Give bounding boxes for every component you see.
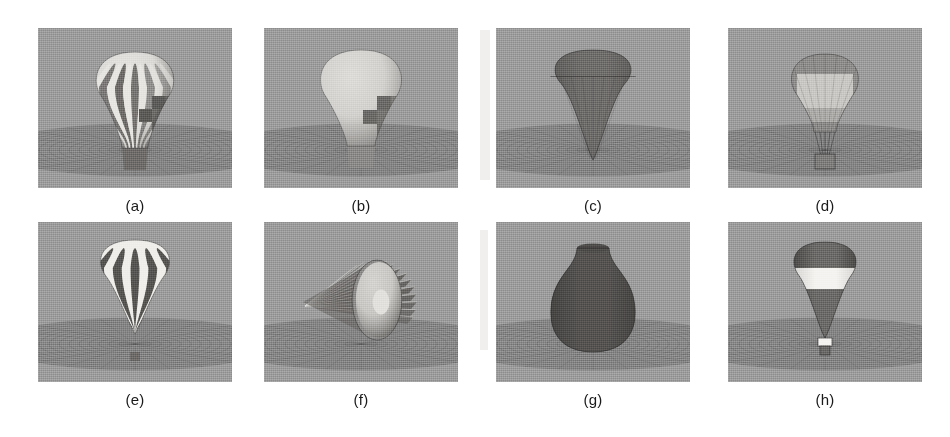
render-image-e [38,222,232,382]
panel-label-b: (b) [264,197,458,214]
render-image-h [728,222,922,382]
panel-label-a: (a) [38,197,232,214]
scan-bleed-artifact [480,230,488,350]
panel-label-c: (c) [496,197,690,214]
render-image-a [38,28,232,188]
figure-panel-grid: (a) (b) (c) [0,0,950,437]
render-image-b [264,28,458,188]
panel-label-g: (g) [496,391,690,408]
panel-label-d: (d) [728,197,922,214]
figure-panel-h: (h) [728,222,922,408]
figure-panel-g: (g) [496,222,690,408]
figure-panel-a: (a) [38,28,232,214]
render-image-d [728,28,922,188]
figure-panel-f: (f) [264,222,458,408]
figure-panel-e: (e) [38,222,232,408]
render-image-c [496,28,690,188]
render-image-g [496,222,690,382]
figure-panel-d: (d) [728,28,922,214]
panel-label-e: (e) [38,391,232,408]
panel-label-f: (f) [264,391,458,408]
panel-label-h: (h) [728,391,922,408]
render-image-f [264,222,458,382]
scan-bleed-artifact [480,30,490,180]
figure-panel-b: (b) [264,28,458,214]
figure-panel-c: (c) [496,28,690,214]
